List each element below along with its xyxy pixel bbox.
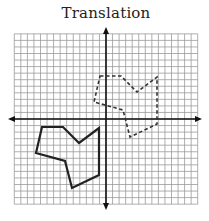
x-axis-right-arrow-icon bbox=[195, 116, 202, 122]
x-axis-left-arrow-icon bbox=[8, 116, 15, 122]
coordinate-plane bbox=[0, 0, 209, 221]
y-axis-up-arrow-icon bbox=[103, 27, 109, 34]
preimage-shape bbox=[36, 127, 99, 188]
x-axis bbox=[8, 116, 202, 122]
y-axis-down-arrow-icon bbox=[103, 203, 109, 210]
